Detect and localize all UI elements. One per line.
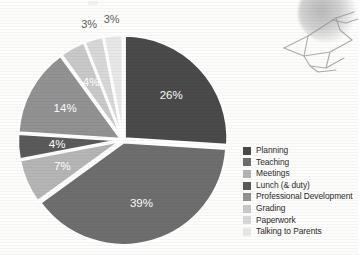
legend-item[interactable]: Lunch (& duty): [243, 180, 358, 192]
legend-item-label: Paperwork: [256, 215, 296, 227]
legend-item[interactable]: Paperwork: [243, 215, 358, 227]
legend-item-label: Lunch (& duty): [256, 180, 310, 192]
pie-chart: 26%39%7%4%14%4%3%3%: [0, 0, 250, 255]
legend-item[interactable]: Meetings: [243, 168, 358, 180]
legend-item[interactable]: Planning: [243, 145, 358, 157]
legend-item-label: Planning: [256, 145, 288, 157]
legend-color-swatch: [243, 228, 251, 236]
pie-chart-svg: 26%39%7%4%14%4%3%3%: [0, 0, 250, 255]
legend-item-label: Meetings: [256, 168, 290, 180]
legend-item[interactable]: Teaching: [243, 157, 358, 169]
legend-item[interactable]: Professional Development: [243, 191, 358, 203]
legend-color-swatch: [243, 182, 251, 190]
legend-color-swatch: [243, 205, 251, 213]
legend-color-swatch: [243, 170, 251, 178]
pie-slice-value-label: 39%: [130, 197, 153, 209]
legend-item[interactable]: Grading: [243, 203, 358, 215]
pie-slice-value-label: 3%: [104, 13, 120, 25]
legend-color-swatch: [243, 193, 251, 201]
pie-slice-value-label: 4%: [49, 138, 66, 150]
pie-slice-value-label: 3%: [81, 18, 97, 30]
chart-legend: PlanningTeachingMeetingsLunch (& duty)Pr…: [243, 145, 358, 238]
legend-item-label: Grading: [256, 203, 285, 215]
legend-item-label: Professional Development: [256, 191, 353, 203]
pie-slice-value-label: 7%: [54, 160, 71, 172]
legend-color-swatch: [243, 147, 251, 155]
pie-slice-value-label: 14%: [54, 102, 77, 114]
pie-slice-value-label: 4%: [83, 76, 100, 88]
legend-color-swatch: [243, 158, 251, 166]
legend-item-label: Teaching: [256, 157, 289, 169]
legend-color-swatch: [243, 216, 251, 224]
legend-item[interactable]: Talking to Parents: [243, 226, 358, 238]
legend-item-label: Talking to Parents: [256, 226, 322, 238]
pie-slice-value-label: 26%: [160, 89, 183, 101]
